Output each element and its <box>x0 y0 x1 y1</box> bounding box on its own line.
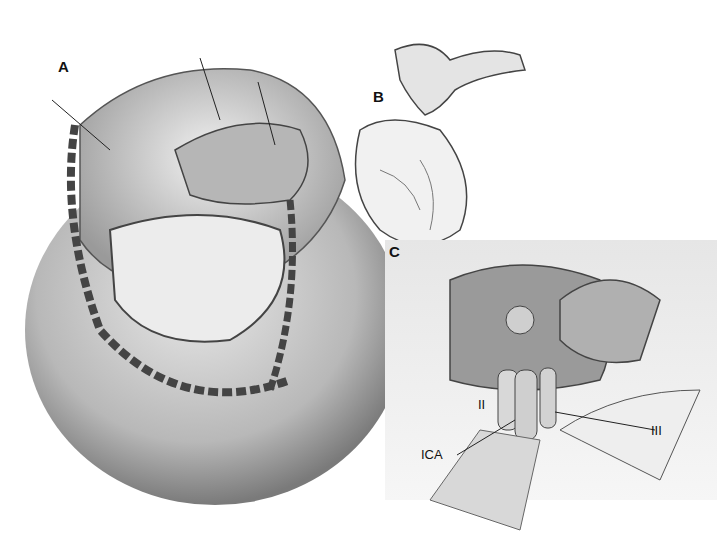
panel-a-drawing <box>25 58 405 505</box>
panel-b-label: B <box>373 88 384 105</box>
oculomotor-label: III <box>651 423 662 438</box>
panel-a-label: A <box>58 58 69 75</box>
panel-c-drawing <box>385 240 717 530</box>
ica-label: ICA <box>421 447 443 462</box>
illustration-canvas <box>0 0 717 538</box>
optic-nerve-label: II <box>478 397 485 412</box>
panel-c-label: C <box>389 243 400 260</box>
panel-b-drawing <box>356 44 526 245</box>
